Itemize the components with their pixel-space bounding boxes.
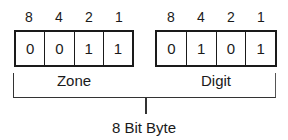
digit-weights: 8 4 2 1: [156, 9, 276, 25]
zone-box: 0 0 1 1: [14, 30, 134, 67]
digit-weight-4: 4: [186, 9, 216, 25]
zone-weight-1: 1: [104, 9, 134, 25]
zone-bit-2: 1: [75, 32, 104, 65]
digit-box: 0 1 0 1: [155, 30, 277, 67]
zone-bit-8: 0: [16, 32, 45, 65]
digit-weight-1: 1: [246, 9, 276, 25]
digit-label: Digit: [155, 72, 277, 90]
digit-bit-8: 0: [157, 32, 187, 65]
digit-weight-2: 2: [216, 9, 246, 25]
zone-weight-2: 2: [74, 9, 104, 25]
bracket-center-tick: [145, 98, 147, 114]
digit-bit-2: 0: [217, 32, 247, 65]
zone-weight-4: 4: [44, 9, 74, 25]
zone-label: Zone: [14, 72, 134, 90]
digit-bit-1: 1: [246, 32, 275, 65]
zone-weight-8: 8: [14, 9, 44, 25]
zone-bit-4: 0: [45, 32, 74, 65]
zone-weights: 8 4 2 1: [14, 9, 134, 25]
zone-bit-1: 1: [104, 32, 132, 65]
digit-weight-8: 8: [156, 9, 186, 25]
digit-bit-4: 1: [187, 32, 217, 65]
byte-caption: 8 Bit Byte: [0, 119, 288, 137]
